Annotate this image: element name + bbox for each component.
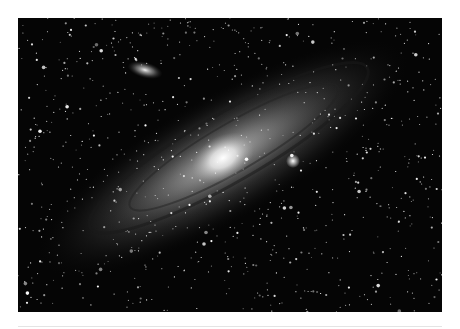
galaxy-illustration	[18, 18, 442, 312]
galaxy-photo	[18, 18, 442, 312]
divider-line	[18, 326, 442, 327]
